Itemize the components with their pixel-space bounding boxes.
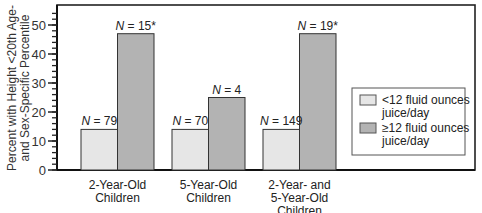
legend-label: juice/day (381, 106, 429, 120)
legend-label: <12 fluid ounces (382, 93, 470, 107)
n-label: N = 19* (298, 19, 339, 33)
n-label: N = 15* (116, 19, 157, 33)
y-tick-label: 50 (32, 18, 46, 33)
y-tick-label: 20 (32, 105, 46, 120)
bar (300, 34, 337, 170)
y-axis-label: and Sex-Specific Percentile (18, 14, 32, 161)
x-category-label: 5-Year-Old (271, 191, 329, 205)
y-tick-label: 30 (32, 76, 46, 91)
y-tick-label: 0 (39, 163, 46, 178)
legend-swatch (360, 95, 376, 105)
y-tick-label: 10 (32, 134, 46, 149)
x-category-label: 2-Year- and (268, 178, 330, 192)
legend-label: ≥12 fluid ounces (382, 121, 469, 135)
x-category-label: Children (186, 191, 231, 205)
legend-label: juice/day (381, 134, 429, 148)
n-label: N = 79 (81, 114, 117, 128)
x-category-label: Children (95, 191, 140, 205)
legend-swatch (360, 123, 376, 133)
bar (81, 129, 118, 170)
bar (118, 34, 155, 170)
bar-chart: Percent with Height <20th Age-and Sex-Sp… (0, 0, 482, 213)
x-category-label: 2-Year-Old (89, 178, 147, 192)
y-axis-label: Percent with Height <20th Age- (5, 5, 19, 171)
y-tick-label: 40 (32, 47, 46, 62)
n-label: N = 70 (172, 114, 208, 128)
bar (172, 129, 209, 170)
x-category-label: 5-Year-Old (180, 178, 238, 192)
bar (209, 98, 246, 171)
n-label: N = 149 (260, 114, 303, 128)
x-category-label: Children (277, 204, 322, 213)
bar (263, 129, 300, 170)
n-label: N = 4 (212, 83, 241, 97)
